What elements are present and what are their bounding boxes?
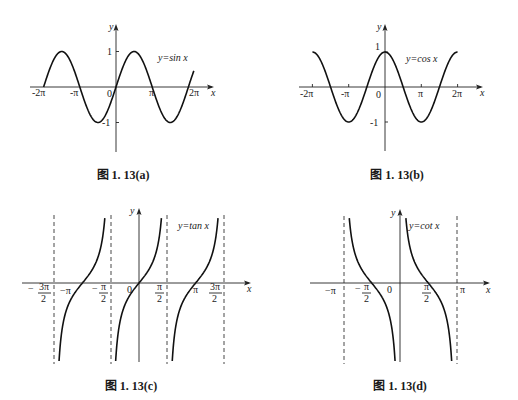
x-tick-pi-2: π 2 bbox=[155, 281, 164, 304]
x-tick-negpi: -π bbox=[341, 88, 349, 99]
x-tick-negpi: −π bbox=[60, 285, 71, 296]
equation-label: y=sin x bbox=[157, 52, 188, 63]
x-axis-label: x bbox=[246, 283, 252, 294]
x-tick-neg-pi-2: − π 2 bbox=[355, 281, 371, 304]
x-tick-negpi: -π bbox=[70, 87, 78, 98]
sine-graph-panel: y x 1 -1 -2π -π 0 π 2π y=sin x 图 1. 13(a… bbox=[30, 21, 216, 182]
cosine-graph-panel: y x 1 -1 -2π -π 0 π 2π y=cos x 图 1. 13(b… bbox=[299, 21, 485, 182]
trig-function-figure: y x 1 -1 -2π -π 0 π 2π y=sin x 图 1. 13(a… bbox=[0, 0, 518, 400]
x-axis-label: x bbox=[479, 87, 485, 98]
x-tick-pi: π bbox=[149, 87, 154, 98]
svg-text:2: 2 bbox=[364, 293, 369, 304]
y-tick-1: 1 bbox=[107, 46, 112, 57]
x-tick-3pi-2: 3π 2 bbox=[209, 281, 222, 304]
y-axis-label: y bbox=[390, 207, 396, 218]
svg-text:π: π bbox=[424, 281, 429, 292]
x-tick-origin: 0 bbox=[376, 89, 381, 100]
svg-text:−: − bbox=[28, 283, 34, 294]
x-tick-origin: 0 bbox=[107, 88, 112, 99]
x-tick-neg2pi: -2π bbox=[32, 87, 45, 98]
y-axis-label: y bbox=[129, 205, 135, 216]
x-tick-neg2pi: -2π bbox=[300, 88, 313, 99]
figure-caption: 图 1. 13(a) bbox=[97, 168, 150, 182]
figure-caption: 图 1. 13(d) bbox=[373, 379, 427, 393]
figure-caption: 图 1. 13(c) bbox=[105, 379, 157, 393]
svg-text:2: 2 bbox=[101, 293, 106, 304]
x-tick-neg-3pi-2: − 3π 2 bbox=[28, 281, 51, 304]
svg-text:π: π bbox=[364, 281, 369, 292]
x-tick-negpi: −π bbox=[325, 285, 336, 296]
svg-text:2: 2 bbox=[41, 293, 46, 304]
x-tick-neg-pi-2: − π 2 bbox=[92, 281, 108, 304]
x-tick-origin: 0 bbox=[127, 284, 132, 295]
x-tick-pi: π bbox=[193, 284, 198, 295]
y-axis-label: y bbox=[108, 21, 114, 32]
y-tick-neg1: -1 bbox=[102, 117, 110, 128]
svg-text:3π: 3π bbox=[39, 281, 49, 292]
tangent-graph-panel: y x − 3π 2 −π − π 2 0 π 2 π 3π 2 y=tan x… bbox=[22, 205, 252, 393]
figure-caption: 图 1. 13(b) bbox=[370, 168, 424, 182]
svg-text:3π: 3π bbox=[210, 281, 220, 292]
x-axis-label: x bbox=[485, 284, 491, 295]
y-axis-label: y bbox=[376, 21, 382, 32]
equation-label: y=cot x bbox=[408, 220, 440, 231]
x-tick-2pi: 2π bbox=[189, 87, 199, 98]
x-tick-pi: π bbox=[418, 88, 423, 99]
y-tick-1: 1 bbox=[375, 41, 380, 52]
cotangent-graph-panel: y x −π − π 2 0 π 2 π y=cot x 图 1. 13(d) bbox=[310, 207, 491, 393]
svg-text:2: 2 bbox=[157, 293, 162, 304]
svg-text:−: − bbox=[355, 283, 361, 294]
equation-label: y=cos x bbox=[405, 53, 438, 64]
x-tick-pi: π bbox=[460, 284, 465, 295]
svg-text:π: π bbox=[101, 281, 106, 292]
equation-label: y=tan x bbox=[177, 220, 209, 231]
svg-text:−: − bbox=[92, 283, 98, 294]
svg-text:2: 2 bbox=[212, 293, 217, 304]
x-tick-2pi: 2π bbox=[452, 88, 462, 99]
svg-text:π: π bbox=[157, 281, 162, 292]
x-tick-origin: 0 bbox=[387, 284, 392, 295]
x-axis-label: x bbox=[210, 87, 216, 98]
y-tick-neg1: -1 bbox=[370, 117, 378, 128]
svg-text:2: 2 bbox=[424, 293, 429, 304]
